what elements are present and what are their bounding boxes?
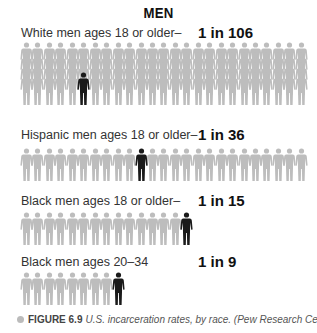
row-label-black-18plus: Black men ages 18 or older–: [21, 194, 180, 208]
row-label-hispanic: Hispanic men ages 18 or older–: [21, 128, 198, 142]
person-icon: [295, 148, 308, 182]
rate-white: 1 in 106: [198, 24, 253, 41]
figure-caption: FIGURE 6.9U.S. incarceration rates, by r…: [17, 314, 317, 325]
person-icon: [77, 72, 90, 106]
person-icon: [135, 148, 148, 182]
row-label-black-20-34: Black men ages 20–34: [21, 255, 148, 269]
rate-hispanic: 1 in 36: [198, 126, 245, 143]
person-icon: [180, 212, 193, 246]
rate-black-20-34: 1 in 9: [198, 253, 236, 270]
row-label-white: White men ages 18 or older–: [21, 26, 182, 40]
person-icon: [295, 72, 308, 106]
person-icon: [112, 272, 125, 306]
chart-title: MEN: [19, 4, 298, 21]
rate-black-18plus: 1 in 15: [198, 192, 245, 209]
bullet-icon: [17, 316, 24, 323]
figure-number: FIGURE 6.9: [28, 314, 82, 325]
caption-text: U.S. incarceration rates, by race. (Pew …: [85, 314, 317, 325]
